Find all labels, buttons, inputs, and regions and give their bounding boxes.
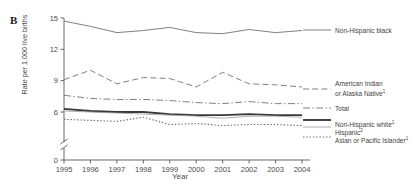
svg-text:2004: 2004 (294, 165, 311, 174)
svg-text:12: 12 (50, 45, 58, 54)
svg-text:1997: 1997 (109, 165, 126, 174)
axes-layer: 0691215199519961997199819992000200120022… (50, 14, 311, 174)
svg-text:9: 9 (54, 76, 58, 85)
svg-text:2001: 2001 (214, 165, 231, 174)
svg-text:6: 6 (54, 108, 58, 117)
figure-panel-b: B Rate per 1,000 live births Year 069121… (0, 0, 419, 191)
series-line-5 (64, 117, 302, 125)
series-line-2 (64, 95, 302, 103)
svg-text:2000: 2000 (188, 165, 205, 174)
svg-text:1998: 1998 (135, 165, 152, 174)
series-layer (64, 21, 302, 125)
series-line-1 (64, 70, 302, 87)
svg-text:2003: 2003 (267, 165, 284, 174)
svg-text:2002: 2002 (241, 165, 258, 174)
svg-text:15: 15 (50, 14, 58, 23)
line-chart: 0691215199519961997199819992000200120022… (0, 0, 419, 191)
svg-text:1999: 1999 (161, 165, 178, 174)
legend-leader-lines (303, 30, 331, 137)
svg-text:1995: 1995 (56, 165, 73, 174)
svg-text:0: 0 (54, 156, 58, 165)
svg-text:1996: 1996 (82, 165, 99, 174)
series-line-0 (64, 21, 302, 34)
